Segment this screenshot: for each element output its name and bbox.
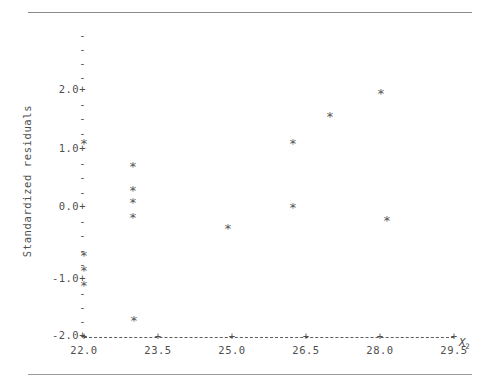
data-point: * <box>377 87 385 100</box>
y-axis-tick: - <box>72 30 86 41</box>
data-point: * <box>80 264 88 277</box>
x-axis-label: 26.5 <box>292 345 319 356</box>
y-axis-label: 0.0+ <box>36 201 86 212</box>
x-axis-label: 28.0 <box>366 345 393 356</box>
y-axis-tick: - <box>72 216 86 227</box>
y-axis-tick: - <box>72 316 86 327</box>
y-axis-title: Standardized residuals <box>21 91 33 271</box>
y-axis-tick: - <box>72 113 86 124</box>
y-axis-label: 1.0+ <box>36 143 86 154</box>
x-axis-title-subscript: 2 <box>465 342 470 351</box>
y-axis-label: -1.0+ <box>36 273 86 284</box>
data-point: * <box>289 137 297 150</box>
data-point: * <box>129 211 137 224</box>
x-axis-tick: + <box>303 331 309 342</box>
y-axis-tick: - <box>72 302 86 313</box>
scatter-plot-area: Standardized residuals ----2.0+----1.0+-… <box>0 0 485 390</box>
x-axis-line <box>84 337 454 338</box>
y-axis-tick: - <box>72 187 86 198</box>
data-point: * <box>224 222 232 235</box>
y-axis-label: 2.0+ <box>36 84 86 95</box>
data-point: * <box>80 279 88 292</box>
data-point: * <box>383 214 391 227</box>
y-axis-tick: - <box>72 230 86 241</box>
y-axis-tick: - <box>72 158 86 169</box>
y-axis-tick: - <box>72 58 86 69</box>
y-axis-tick: - <box>72 172 86 183</box>
x-axis-tick: + <box>155 331 161 342</box>
data-point: * <box>326 110 334 123</box>
x-axis-title: X2 <box>459 336 470 351</box>
x-axis-tick: + <box>377 331 383 342</box>
y-axis-label: -2.0+ <box>36 330 86 341</box>
data-point: * <box>130 314 138 327</box>
data-point: * <box>80 137 88 150</box>
x-axis-label: 23.5 <box>144 345 171 356</box>
data-point: * <box>80 249 88 262</box>
y-axis-tick: - <box>72 72 86 83</box>
page-rule-bottom <box>28 374 472 375</box>
x-axis-tick: + <box>229 331 235 342</box>
y-axis-tick: - <box>72 99 86 110</box>
data-point: * <box>129 196 137 209</box>
y-axis-tick: - <box>72 44 86 55</box>
x-axis-label: 25.0 <box>218 345 245 356</box>
x-axis-tick: + <box>81 331 87 342</box>
x-axis-tick: + <box>451 331 457 342</box>
x-axis-label: 22.0 <box>70 345 97 356</box>
data-point: * <box>289 201 297 214</box>
data-point: * <box>129 160 137 173</box>
